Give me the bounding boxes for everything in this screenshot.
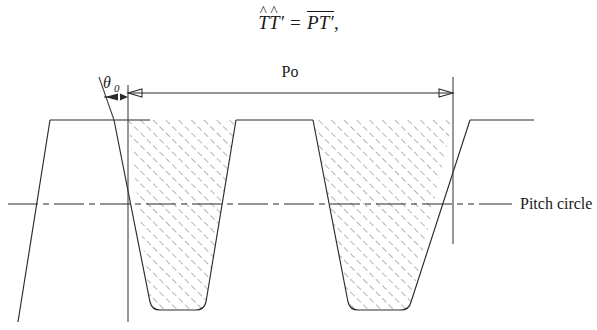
equation-rhs-overbar-group: PT′: [307, 11, 334, 32]
hatched-tooth-space-1: [110, 114, 260, 319]
equation-block: ^T^T′=PT′,: [0, 4, 597, 44]
equation-trailing-comma: ,: [334, 12, 339, 33]
hatch-fill-space-1: [110, 114, 260, 319]
tooth-flank-far-left: [18, 120, 50, 322]
equation-lhs-symbol-2: ^T: [269, 4, 280, 32]
pitch-circle-label: Pitch circle: [520, 195, 592, 212]
circumflex-accent-icon: ^: [260, 4, 267, 19]
equation-lhs-symbol-1: ^T: [258, 4, 269, 32]
pressure-angle-arrow-right: [120, 94, 128, 101]
hatch-fill-space-2: [300, 114, 470, 319]
pitch-dimension-label: Po: [282, 63, 299, 80]
equation-rhs-letter-1: P: [307, 12, 319, 33]
pressure-angle-annotation: θ 0: [99, 74, 128, 120]
equation-equals-sign: =: [284, 12, 307, 33]
pitch-dimension-po: Po: [128, 63, 453, 97]
tooth-profile-figure: Po θ 0 Pitch circle: [0, 44, 597, 330]
equation-rhs-letter-2: T: [319, 12, 330, 33]
hatched-tooth-space-2: [300, 114, 470, 319]
pressure-angle-symbol: θ: [103, 74, 111, 91]
equation-expression: ^T^T′=PT′,: [258, 4, 339, 32]
pressure-angle-subscript: 0: [114, 82, 120, 94]
tooth-profile-drawing: Po θ 0 Pitch circle: [0, 44, 597, 330]
pitch-circle-annotation: Pitch circle: [8, 195, 592, 212]
circumflex-accent-icon: ^: [271, 4, 278, 19]
